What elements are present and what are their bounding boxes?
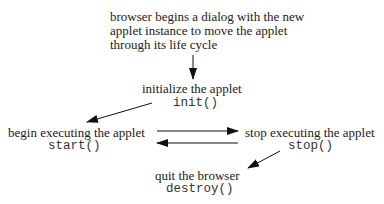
arrows-layer — [0, 0, 384, 204]
arrow-init-to-start — [87, 103, 152, 122]
arrow-stop-to-destroy — [248, 151, 280, 168]
applet-lifecycle-diagram: browser begins a dialog with the new app… — [0, 0, 384, 204]
